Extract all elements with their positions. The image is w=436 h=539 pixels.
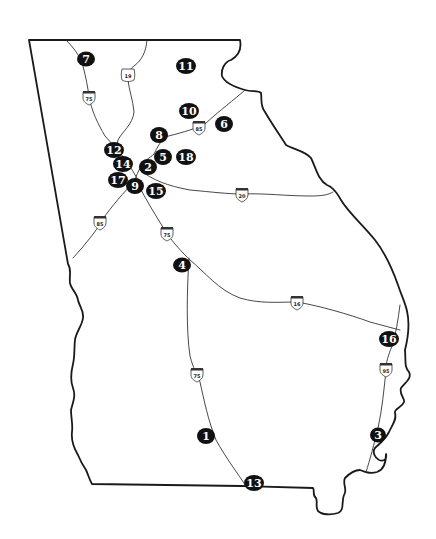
shield-label: 95 bbox=[383, 368, 390, 374]
location-marker-12[interactable]: 12 bbox=[104, 142, 124, 158]
location-marker-3[interactable]: 3 bbox=[370, 428, 386, 443]
marker-label: 5 bbox=[159, 151, 167, 164]
shield-label: 19 bbox=[125, 73, 132, 79]
i16-shield-icon: 16 bbox=[291, 296, 303, 310]
marker-label: 4 bbox=[178, 259, 186, 272]
shield-label: 16 bbox=[294, 301, 301, 307]
i85-shield-icon: 85 bbox=[193, 121, 205, 135]
highways bbox=[66, 40, 400, 486]
i75-shield-icon: 75 bbox=[83, 91, 95, 105]
marker-label: 6 bbox=[220, 118, 228, 131]
location-marker-8[interactable]: 8 bbox=[150, 127, 168, 143]
shield-label: 85 bbox=[196, 126, 203, 132]
i95-shield-icon: 95 bbox=[380, 363, 392, 377]
location-marker-5[interactable]: 5 bbox=[154, 149, 172, 165]
location-marker-17[interactable]: 17 bbox=[108, 172, 128, 188]
i95-road bbox=[366, 305, 400, 472]
marker-label: 16 bbox=[381, 333, 397, 346]
shield-label: 85 bbox=[97, 221, 104, 227]
i16-road bbox=[190, 260, 400, 330]
location-marker-11[interactable]: 11 bbox=[176, 58, 196, 74]
location-marker-10[interactable]: 10 bbox=[179, 103, 199, 119]
i75-shield-icon: 75 bbox=[191, 368, 203, 382]
location-marker-4[interactable]: 4 bbox=[173, 258, 191, 273]
marker-label: 15 bbox=[148, 185, 163, 198]
marker-label: 9 bbox=[131, 180, 139, 193]
i20-shield-icon: 20 bbox=[236, 188, 248, 202]
i85-shield-icon: 85 bbox=[94, 216, 106, 230]
shield-label: 75 bbox=[164, 232, 171, 238]
marker-label: 11 bbox=[178, 60, 193, 73]
marker-label: 10 bbox=[181, 105, 197, 118]
location-marker-6[interactable]: 6 bbox=[215, 116, 233, 132]
location-marker-14[interactable]: 14 bbox=[113, 156, 133, 172]
shield-label: 75 bbox=[194, 373, 201, 379]
location-markers: 1 2 3 4 5 6 7 8 9 10 11 12 14 15 16 bbox=[77, 52, 399, 492]
location-marker-7[interactable]: 7 bbox=[77, 52, 95, 67]
marker-label: 3 bbox=[374, 429, 382, 442]
location-marker-18[interactable]: 18 bbox=[176, 149, 196, 165]
location-marker-9[interactable]: 9 bbox=[126, 178, 144, 194]
marker-label: 17 bbox=[110, 174, 125, 187]
marker-label: 18 bbox=[178, 151, 194, 164]
georgia-map: 19 75 85 20 85 75 16 bbox=[0, 0, 436, 539]
location-marker-13[interactable]: 13 bbox=[244, 475, 264, 491]
location-marker-15[interactable]: 15 bbox=[146, 183, 166, 199]
marker-label: 1 bbox=[202, 430, 210, 443]
marker-label: 14 bbox=[115, 158, 131, 171]
marker-label: 8 bbox=[155, 129, 163, 142]
marker-label: 13 bbox=[246, 477, 261, 490]
location-marker-1[interactable]: 1 bbox=[197, 428, 215, 444]
location-marker-16[interactable]: 16 bbox=[379, 331, 399, 347]
marker-label: 7 bbox=[82, 53, 90, 66]
us19-shield-icon: 19 bbox=[121, 69, 135, 82]
marker-label: 12 bbox=[106, 144, 121, 157]
shield-label: 20 bbox=[239, 193, 246, 199]
marker-label: 2 bbox=[144, 161, 152, 174]
highway-shields: 19 75 85 20 85 75 16 bbox=[83, 69, 392, 382]
shield-label: 75 bbox=[86, 96, 93, 102]
location-marker-2[interactable]: 2 bbox=[139, 159, 157, 175]
